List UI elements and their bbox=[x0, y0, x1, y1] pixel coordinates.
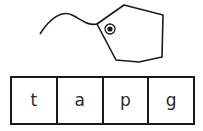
tag-string bbox=[40, 14, 97, 34]
letter-box-4[interactable]: g bbox=[149, 78, 193, 123]
letter-box-3[interactable]: p bbox=[104, 78, 150, 123]
tag-hole bbox=[107, 26, 112, 31]
letter-box-1[interactable]: t bbox=[12, 78, 58, 123]
letter-box-2[interactable]: a bbox=[58, 78, 104, 123]
tag-icon bbox=[0, 0, 203, 70]
letter-boxes: t a p g bbox=[10, 76, 195, 125]
